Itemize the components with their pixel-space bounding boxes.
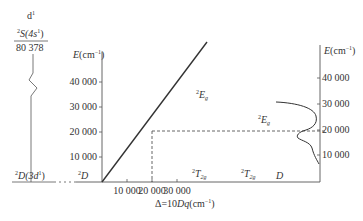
eg-band-label: 2Eg bbox=[258, 114, 270, 126]
y-tick-20000: 20 000 bbox=[70, 126, 98, 137]
energy-vs-delta-plot: E(cm−1) 10 000 20 000 30 000 40 000 10 0… bbox=[70, 42, 326, 210]
upper-energy-value: 80 378 bbox=[16, 42, 44, 53]
right-y-tick-20000: 20 000 bbox=[322, 124, 350, 135]
t2g-label-right: 2T2g bbox=[241, 168, 256, 180]
crystal-field-diagram: d1 2S(4s1) 80 378 2D(3d1) E(cm−1) 10 000… bbox=[0, 0, 363, 221]
d-state-label-right: D bbox=[275, 170, 284, 181]
lower-state-label: 2D(3d1) bbox=[15, 170, 45, 182]
eg-line-label: 2Eg bbox=[196, 89, 208, 101]
y-tick-40000: 40 000 bbox=[70, 76, 98, 87]
right-y-axis-label: E(cm−1) bbox=[323, 45, 355, 57]
y-tick-30000: 30 000 bbox=[70, 101, 98, 112]
x-tick-10000: 10 000 bbox=[113, 185, 141, 196]
right-y-tick-40000: 40 000 bbox=[322, 72, 350, 83]
absorption-band-curve bbox=[276, 102, 319, 164]
free-ion-panel: d1 2S(4s1) 80 378 2D(3d1) bbox=[12, 10, 76, 182]
x-axis-label: Δ=10Dq(cm−1) bbox=[155, 198, 215, 210]
x-tick-30000: 30 000 bbox=[163, 185, 191, 196]
y-axis-label: E(cm−1) bbox=[72, 49, 104, 61]
absorption-band-plot: E(cm−1) 40 000 30 000 20 000 10 000 2Eg … bbox=[241, 45, 355, 182]
right-y-tick-30000: 30 000 bbox=[322, 98, 350, 109]
config-label: d1 bbox=[27, 10, 35, 21]
eg-energy-line bbox=[102, 42, 207, 182]
y-tick-10000: 10 000 bbox=[70, 151, 98, 162]
upper-state-label: 2S(4s1) bbox=[17, 28, 44, 40]
axis-break-line bbox=[29, 54, 37, 182]
right-y-tick-10000: 10 000 bbox=[322, 149, 350, 160]
t2g-label-main: 2T2g bbox=[192, 168, 207, 180]
origin-state-label: 2D bbox=[78, 170, 89, 181]
x-tick-20000: 20 000 bbox=[138, 185, 166, 196]
